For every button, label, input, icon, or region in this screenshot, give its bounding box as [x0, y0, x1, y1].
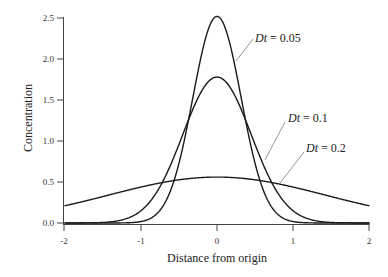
y-tick-label: 2.5	[43, 13, 55, 23]
x-tick-label: -1	[137, 236, 145, 246]
x-ticks: -2 -1 0 1 2	[60, 225, 371, 247]
annotation-dt-0-05: Dt = 0.05	[254, 31, 301, 45]
y-ticks: 2.5 2.0 1.5 1.0 0.5 0.0	[43, 13, 64, 228]
y-tick-label: 2.0	[43, 54, 55, 64]
leader-line-dt-0-1	[265, 122, 285, 160]
y-tick-label: 0.5	[43, 177, 55, 187]
leader-line-dt-0-05	[236, 39, 253, 61]
annotation-dt-0-2: Dt = 0.2	[305, 141, 346, 155]
leader-line-dt-0-2	[280, 152, 304, 183]
y-tick-label: 0.0	[43, 218, 55, 228]
y-tick-label: 1.5	[43, 95, 55, 105]
x-tick-label: 0	[215, 236, 220, 246]
x-tick-label: -2	[60, 236, 68, 246]
y-tick-label: 1.0	[43, 136, 55, 146]
x-axis-title: Distance from origin	[167, 251, 267, 265]
curve-dt-0-2	[65, 177, 370, 206]
x-tick-label: 1	[291, 236, 296, 246]
annotation-dt-0-1: Dt = 0.1	[287, 111, 328, 125]
x-tick-label: 2	[367, 236, 372, 246]
y-axis-title: Concentration	[21, 84, 35, 152]
chart: 2.5 2.0 1.5 1.0 0.5 0.0 -2 -1 0 1 2 Dist…	[0, 0, 388, 277]
